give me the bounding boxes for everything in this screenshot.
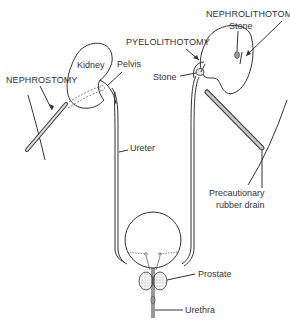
prostate-right-lobe xyxy=(153,272,167,290)
svg-text:NEPHROSTOMY: NEPHROSTOMY xyxy=(6,75,77,85)
label-stone-pelvis: Stone xyxy=(153,72,196,82)
label-urethra: Urethra xyxy=(155,305,215,315)
svg-text:Stone: Stone xyxy=(229,21,253,31)
label-prostate: Prostate xyxy=(167,269,232,280)
svg-text:Kidney: Kidney xyxy=(77,60,105,70)
label-pyelolithotomy: PYELOLITHOTOMY xyxy=(126,37,210,60)
label-nephrolithotomy: NEPHROLITHOTOMY Stone xyxy=(206,9,290,56)
label-ureter: Ureter xyxy=(119,143,155,153)
svg-text:NEPHROLITHOTOMY: NEPHROLITHOTOMY xyxy=(206,9,290,19)
urinary-tract-diagram: NEPHROSTOMY Kidney Pelvis Ureter PYELOLI… xyxy=(0,0,290,330)
label-precautionary-drain: Precautionary rubber drain xyxy=(209,151,265,210)
bladder-trigone xyxy=(127,252,179,254)
left-ureter-inner xyxy=(115,92,124,262)
svg-text:Stone: Stone xyxy=(153,72,177,82)
svg-text:PYELOLITHOTOMY: PYELOLITHOTOMY xyxy=(126,37,210,47)
svg-text:Ureter: Ureter xyxy=(130,143,155,153)
kidney-stone xyxy=(235,52,240,59)
label-kidney: Kidney xyxy=(77,60,105,70)
left-body-wall xyxy=(28,95,45,160)
svg-text:Prostate: Prostate xyxy=(198,269,232,279)
right-kidney xyxy=(200,25,253,93)
left-renal-pelvis xyxy=(100,80,116,104)
bladder xyxy=(125,212,181,268)
kidney-incision xyxy=(240,52,242,64)
svg-text:Urethra: Urethra xyxy=(185,305,215,315)
pelvis-stone xyxy=(196,69,204,76)
svg-text:rubber drain: rubber drain xyxy=(216,200,265,210)
svg-text:Precautionary: Precautionary xyxy=(209,188,265,198)
prostate-left-lobe xyxy=(139,272,153,290)
svg-text:Pelvis: Pelvis xyxy=(117,59,142,69)
